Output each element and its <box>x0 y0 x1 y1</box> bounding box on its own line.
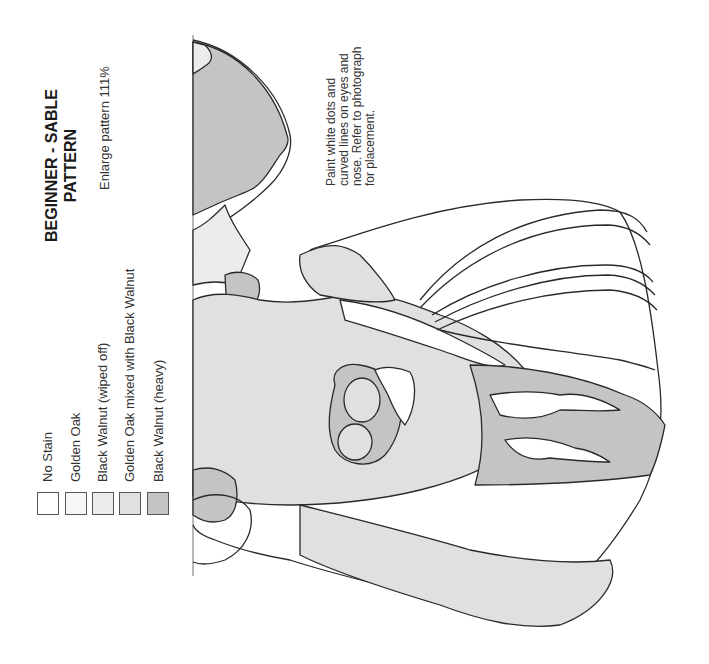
eye-right <box>338 424 372 460</box>
eye-left <box>344 378 380 422</box>
mane-shading <box>300 246 395 303</box>
lower-body-band <box>300 505 613 626</box>
fur-arc-4 <box>435 275 655 322</box>
sable-pattern-drawing <box>0 0 709 664</box>
fur-arc-5 <box>437 290 657 330</box>
belly-dark-band <box>470 365 665 485</box>
fur-arc-2 <box>420 225 650 308</box>
fur-arc-1 <box>420 210 647 300</box>
ear-top <box>193 42 288 215</box>
